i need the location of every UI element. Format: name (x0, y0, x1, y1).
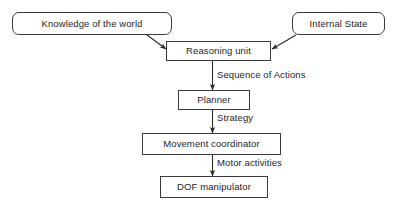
edge-label-sequence-of-actions: Sequence of Actions (217, 70, 306, 80)
node-internal-state[interactable]: Internal State (292, 12, 385, 35)
node-movement-coordinator[interactable]: Movement coordinator (142, 133, 281, 155)
node-knowledge-of-the-world[interactable]: Knowledge of the world (12, 12, 172, 35)
node-label: Planner (197, 95, 230, 105)
edge-internal-state-to-reasoning (272, 35, 296, 49)
node-dof-manipulator[interactable]: DOF manipulator (160, 176, 268, 198)
edge-label-strategy: Strategy (217, 113, 253, 123)
edge-knowledge-to-reasoning (147, 35, 166, 49)
edge-label-motor-activities: Motor activities (217, 158, 282, 168)
node-label: DOF manipulator (177, 182, 251, 192)
node-label: Knowledge of the world (42, 19, 143, 29)
node-label: Internal State (310, 19, 368, 29)
node-label: Reasoning unit (186, 46, 251, 56)
node-label: Movement coordinator (163, 139, 260, 149)
diagram-canvas: Knowledge of the world Internal State Re… (0, 0, 397, 212)
node-planner[interactable]: Planner (178, 90, 250, 110)
node-reasoning-unit[interactable]: Reasoning unit (166, 41, 271, 61)
